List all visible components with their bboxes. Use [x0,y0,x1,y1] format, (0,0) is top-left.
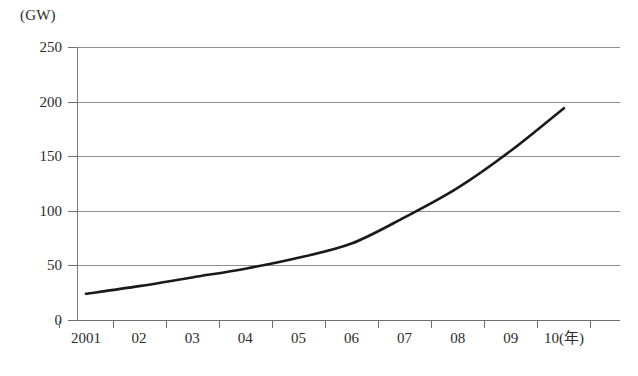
line-chart-figure: (GW) 250200150100500 2001020304050607080… [0,0,638,376]
series-line-layer [0,0,638,376]
y-tick-mark-50 [68,265,77,266]
y-tick-mark-250 [68,47,77,48]
y-tick-mark-200 [68,102,77,103]
series-line-path [86,108,564,294]
y-tick-mark-100 [68,211,77,212]
y-tick-mark-150 [68,156,77,157]
y-tick-mark-0 [68,320,77,321]
